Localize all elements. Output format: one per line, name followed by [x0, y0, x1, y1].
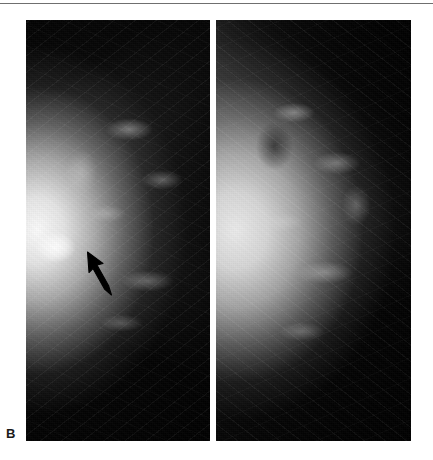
left-breast-view[interactable] — [26, 20, 210, 441]
right-breast-view[interactable] — [216, 20, 411, 441]
page-top-rule — [0, 3, 433, 4]
figure-panel-label: B — [6, 427, 16, 441]
figure-root: B — [0, 0, 433, 460]
mammogram-panel-group — [26, 20, 411, 441]
right-radiograph-image — [216, 20, 411, 441]
left-radiograph-image — [26, 20, 210, 441]
